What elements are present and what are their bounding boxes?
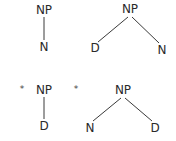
tree-np-n: NP N [36, 3, 52, 54]
edge-right [125, 98, 152, 121]
node-n: N [86, 121, 95, 135]
tree-ungrammatical-np-n-d: * NP N D [74, 83, 160, 135]
tree-np-d-n: NP D N [90, 2, 166, 57]
edge-left [93, 98, 121, 121]
tree-ungrammatical-np-d: * NP D [20, 83, 52, 133]
node-d: D [150, 121, 159, 135]
node-np: NP [122, 2, 138, 16]
node-np: NP [115, 83, 131, 97]
edge-right [132, 17, 159, 43]
node-np: NP [36, 83, 52, 97]
node-d: D [39, 119, 48, 133]
node-n: N [40, 40, 49, 54]
edge-left [98, 17, 128, 42]
node-n: N [158, 43, 167, 57]
ungrammatical-marker: * [20, 84, 25, 94]
syntax-tree-diagram: NP N NP D N * NP D * NP N D [0, 0, 176, 141]
node-np: NP [36, 3, 52, 17]
node-d: D [90, 41, 99, 55]
ungrammatical-marker: * [74, 84, 79, 94]
